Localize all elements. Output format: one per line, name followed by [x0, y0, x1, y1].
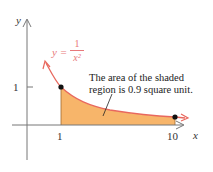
annotation-line-2: region is 0.9 square unit.	[89, 84, 193, 96]
point-10	[172, 114, 177, 119]
y-axis-label: y	[16, 15, 21, 26]
curve-equation: y =	[52, 47, 67, 58]
fraction-denominator: x²	[73, 52, 80, 63]
point-1-1	[58, 84, 63, 89]
x-tick-label-10: 10	[167, 131, 178, 142]
y-tick-label-1: 1	[13, 82, 19, 93]
fraction-numerator: 1	[75, 38, 80, 49]
annotation-line-1: The area of the shaded	[89, 72, 184, 84]
x-tick-label-1: 1	[57, 131, 63, 142]
x-axis-label: x	[193, 130, 198, 141]
curve-equation-fraction: 1 x²	[70, 38, 84, 63]
fraction-bar	[70, 50, 84, 51]
